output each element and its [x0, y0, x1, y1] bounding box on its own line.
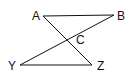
geometry-diagram: A B C Y Z [0, 0, 132, 76]
label-b: B [117, 9, 125, 23]
label-z: Z [97, 59, 104, 73]
segment-ab [43, 15, 114, 16]
label-y: Y [8, 59, 16, 73]
label-a: A [32, 9, 40, 23]
label-c: C [76, 33, 85, 47]
